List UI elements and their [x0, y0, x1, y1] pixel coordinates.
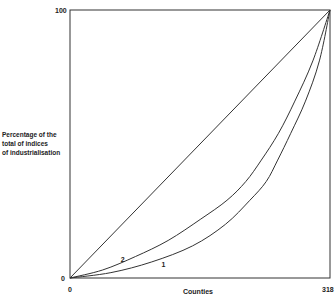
- y-axis-label-line-2: total of indices: [2, 139, 72, 148]
- x-tick-318: 318: [322, 286, 334, 293]
- y-axis-label-line-3: of industrialisation: [2, 148, 72, 157]
- curve-1-label: 1: [162, 261, 166, 268]
- y-axis-label: Percentage of the total of indices of in…: [2, 130, 72, 157]
- curve-2-label: 2: [121, 256, 125, 263]
- y-tick-100: 100: [55, 7, 67, 14]
- x-axis-label: Counties: [183, 288, 213, 295]
- series-line-equality-line: [70, 10, 330, 278]
- x-tick-0: 0: [68, 286, 72, 293]
- y-axis-label-line-1: Percentage of the: [2, 130, 72, 139]
- y-tick-0: 0: [61, 275, 65, 282]
